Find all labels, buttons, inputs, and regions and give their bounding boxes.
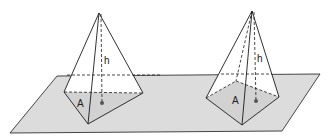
right-base-label: A xyxy=(232,95,239,106)
left-base-label: A xyxy=(77,98,84,109)
right-foot-dot xyxy=(254,99,258,103)
left-foot-dot xyxy=(100,101,104,105)
right-height-label: h xyxy=(257,53,263,64)
diagram-figure: h A h A xyxy=(0,0,326,140)
left-height-label: h xyxy=(104,55,110,66)
pyramids-on-plane-diagram: h A h A xyxy=(0,0,326,140)
